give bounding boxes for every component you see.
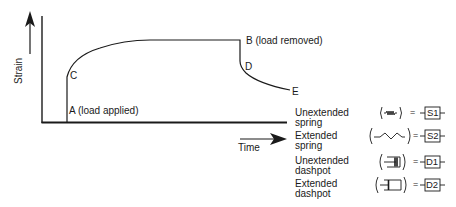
equals-4: = <box>413 179 418 190</box>
legend-row-3-label: Unextendeddashpot <box>295 156 349 176</box>
legend-row-1-label: Unextendedspring <box>295 108 349 128</box>
symbol-d1-text: D1 <box>426 156 438 167</box>
strain-arrow-icon <box>25 11 35 54</box>
dashpot-compressed-icon <box>380 154 405 170</box>
x-axis-label: Time <box>238 142 260 153</box>
dashpot-extended-icon <box>376 177 406 193</box>
equals-2: = <box>413 130 418 141</box>
equals-3: = <box>413 156 418 167</box>
symbol-s1-text: S1 <box>427 107 439 118</box>
strain-time-diagram <box>0 0 456 207</box>
point-d-label: D <box>245 61 252 72</box>
equals-1: = <box>410 107 415 118</box>
legend-row-2-label: Extendedspring <box>295 131 337 151</box>
spring-extended-icon <box>370 128 410 144</box>
y-axis-label: Strain <box>13 58 24 84</box>
point-e-label: E <box>292 86 299 97</box>
legend-row-4-label: Extendeddashpot <box>295 179 337 199</box>
symbol-s2-text: S2 <box>427 130 439 141</box>
spring-compressed-icon <box>381 107 402 119</box>
point-c-label: C <box>70 70 77 81</box>
symbol-d2-text: D2 <box>426 179 438 190</box>
point-a-label: A (load applied) <box>69 105 139 116</box>
point-b-label: B (load removed) <box>246 35 323 46</box>
